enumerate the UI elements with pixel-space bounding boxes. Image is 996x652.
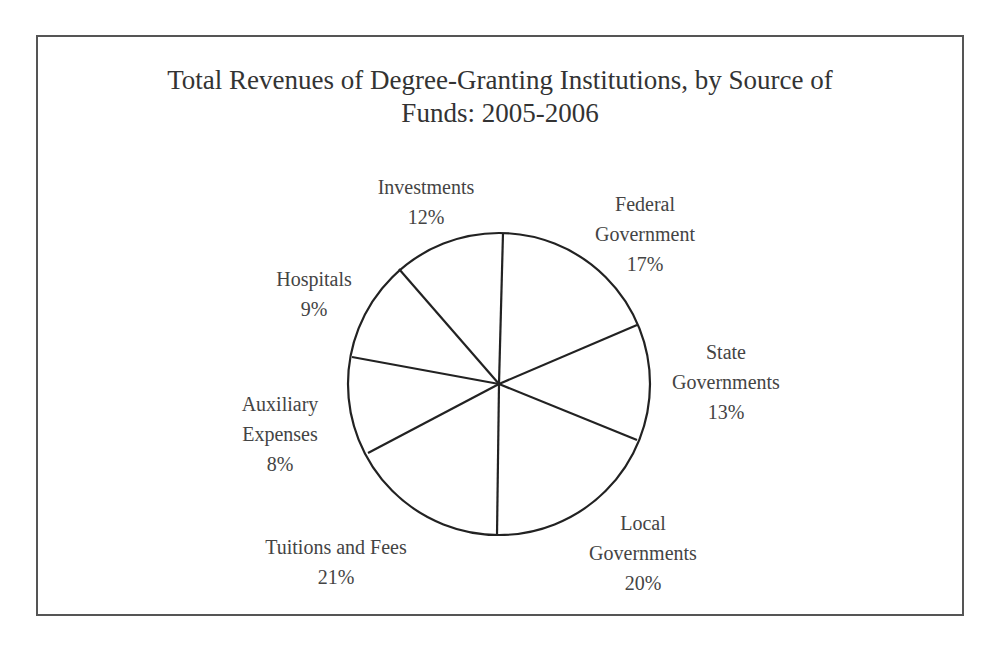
slice-percent: 13% [672, 397, 780, 427]
slice-label-local-governments: Local Governments 20% [589, 508, 697, 598]
slice-label-investments: Investments 12% [378, 172, 475, 232]
slice-label-federal-government: Federal Government 17% [595, 189, 695, 279]
slice-percent: 17% [595, 249, 695, 279]
slice-label-hospitals: Hospitals 9% [276, 264, 352, 324]
slice-percent: 20% [589, 568, 697, 598]
pie-chart [0, 0, 996, 652]
slice-percent: 8% [242, 449, 319, 479]
slice-label-tuitions-and-fees: Tuitions and Fees 21% [265, 532, 407, 592]
slice-label-auxiliary-expenses: Auxiliary Expenses 8% [242, 389, 319, 479]
slice-percent: 9% [276, 294, 352, 324]
slice-percent: 21% [265, 562, 407, 592]
slice-label-state-governments: State Governments 13% [672, 337, 780, 427]
slice-percent: 12% [378, 202, 475, 232]
